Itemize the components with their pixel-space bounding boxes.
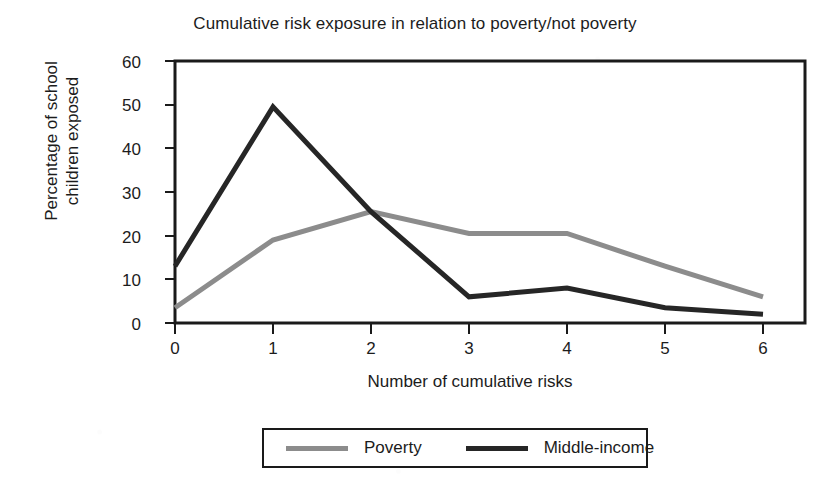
legend-label-middle-income: Middle-income	[544, 438, 655, 458]
legend-swatch-middle-income	[466, 446, 528, 451]
x-axis-ticks	[175, 323, 763, 334]
chart-figure: Cumulative risk exposure in relation to …	[0, 0, 830, 491]
legend-swatch-poverty	[286, 446, 348, 451]
series-line-poverty	[175, 212, 763, 308]
chart-legend: Poverty Middle-income	[262, 428, 648, 468]
plot-area	[0, 0, 830, 491]
series-line-middle-income	[175, 107, 763, 314]
legend-entry-poverty: Poverty	[286, 430, 422, 466]
legend-entry-middle-income: Middle-income	[466, 430, 655, 466]
legend-label-poverty: Poverty	[364, 438, 422, 458]
plot-frame	[175, 61, 805, 323]
